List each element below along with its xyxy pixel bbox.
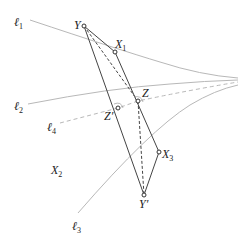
curve-l1 xyxy=(30,20,238,78)
label-Z: Z xyxy=(142,86,149,100)
label-l2: ℓ2 xyxy=(14,99,23,115)
label-Yp: Y′ xyxy=(139,197,149,211)
label-Zp: Z′ xyxy=(104,109,114,123)
segment-X3-Yp xyxy=(144,152,159,195)
point-X3 xyxy=(157,150,161,154)
label-l3: ℓ3 xyxy=(72,219,81,235)
point-Z xyxy=(136,99,140,103)
curve-l4 xyxy=(60,82,238,123)
point-Y xyxy=(82,24,86,28)
label-l1: ℓ1 xyxy=(14,15,23,31)
hyperbolic-diagram: ℓ1 ℓ2 ℓ4 ℓ3 Y X1 Z Z′ X3 Y′ X2 xyxy=(0,0,242,242)
label-X1: X1 xyxy=(114,37,126,53)
label-Y: Y xyxy=(74,18,82,32)
point-Zp xyxy=(116,106,120,110)
label-X2: X2 xyxy=(50,163,62,179)
label-X3: X3 xyxy=(161,147,173,163)
label-l4: ℓ4 xyxy=(47,120,56,136)
